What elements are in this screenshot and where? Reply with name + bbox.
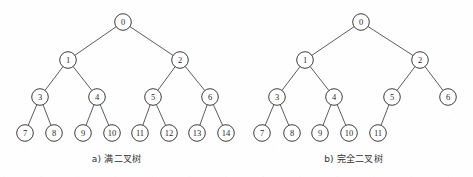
tree-node: 7 <box>17 125 34 142</box>
tree-node-label: 10 <box>108 128 117 138</box>
tree-node: 12 <box>161 125 178 142</box>
tree-edge <box>337 105 346 126</box>
tree-edge <box>158 67 175 91</box>
tree-node: 5 <box>145 89 162 106</box>
tree-edge <box>200 105 207 125</box>
full-binary-tree-edges <box>28 27 222 126</box>
tree-node-label: 8 <box>290 128 294 138</box>
tree-node: 6 <box>202 89 219 106</box>
tree-node-label: 2 <box>418 55 422 65</box>
tree-node-label: 1 <box>303 55 307 65</box>
tree-node-label: 0 <box>121 17 125 27</box>
tree-node: 13 <box>189 125 206 142</box>
tree-edge <box>185 66 205 90</box>
tree-edge <box>100 105 109 126</box>
tree-edge <box>312 27 354 56</box>
tree-node-label: 2 <box>178 55 182 65</box>
caption-full-binary-tree: a) 满二叉树 <box>0 152 233 165</box>
tree-node: 8 <box>46 125 63 142</box>
binary-tree-figure: 01234567891011121314 01234567891011 a) 满… <box>0 0 473 177</box>
tree-node: 11 <box>132 125 149 142</box>
complete-binary-tree-nodes: 01234567891011 <box>254 14 457 142</box>
tree-edge <box>75 27 116 56</box>
tree-node: 14 <box>218 125 235 142</box>
tree-node-label: 1 <box>66 55 70 65</box>
tree-node-label: 8 <box>52 128 56 138</box>
tree-node-label: 12 <box>165 128 174 138</box>
tree-edge <box>265 105 274 126</box>
tree-node: 11 <box>370 125 387 142</box>
tree-node-label: 7 <box>260 128 264 138</box>
tree-edge <box>45 67 63 91</box>
tree-edge <box>43 105 51 126</box>
tree-node-label: 9 <box>81 128 85 138</box>
tree-node: 9 <box>75 125 92 142</box>
tree-node-label: 6 <box>446 92 450 102</box>
tree-node-label: 0 <box>359 17 363 27</box>
tree-edge <box>86 105 94 126</box>
tree-node: 2 <box>172 52 189 69</box>
tree-edge <box>425 67 443 91</box>
tree-node: 0 <box>353 14 370 31</box>
tree-edge <box>397 67 415 91</box>
tree-node: 10 <box>104 125 121 142</box>
tree-edge <box>143 105 150 125</box>
tree-node: 1 <box>60 52 77 69</box>
tree-node-label: 7 <box>23 128 27 138</box>
tree-edge <box>368 26 413 55</box>
tree-node: 4 <box>89 89 106 106</box>
tree-node-label: 11 <box>374 128 382 138</box>
tree-node-label: 3 <box>38 92 42 102</box>
tree-edge <box>310 67 329 91</box>
tree-node: 10 <box>341 125 358 142</box>
tree-node-label: 9 <box>318 128 322 138</box>
tree-edge <box>280 105 289 126</box>
tree-node: 2 <box>412 52 429 69</box>
tree-node: 0 <box>115 14 132 31</box>
tree-edge <box>381 105 389 126</box>
caption-complete-binary-tree: b) 完全二叉树 <box>237 152 470 165</box>
tree-node-label: 13 <box>193 128 202 138</box>
tree-edge <box>73 67 92 91</box>
tree-edge <box>28 105 37 126</box>
tree-edge <box>213 105 222 126</box>
tree-edge <box>323 105 331 126</box>
complete-binary-tree-edges <box>265 26 443 125</box>
tree-edge <box>156 105 165 126</box>
tree-node: 8 <box>284 125 301 142</box>
tree-edge <box>130 27 173 56</box>
tree-node-label: 10 <box>345 128 354 138</box>
tree-node-label: 5 <box>390 92 394 102</box>
tree-node: 3 <box>32 89 49 106</box>
tree-node: 7 <box>254 125 271 142</box>
tree-node: 3 <box>269 89 286 106</box>
tree-node: 6 <box>440 89 457 106</box>
tree-node: 4 <box>326 89 343 106</box>
tree-edge <box>282 67 300 91</box>
tree-node: 9 <box>312 125 329 142</box>
tree-node: 1 <box>297 52 314 69</box>
tree-node-label: 5 <box>151 92 155 102</box>
tree-node: 5 <box>384 89 401 106</box>
tree-node-label: 11 <box>136 128 144 138</box>
tree-node-label: 3 <box>275 92 279 102</box>
tree-node-label: 14 <box>222 128 231 138</box>
tree-diagram-canvas: 01234567891011121314 01234567891011 <box>0 0 473 177</box>
tree-node-label: 6 <box>208 92 212 102</box>
